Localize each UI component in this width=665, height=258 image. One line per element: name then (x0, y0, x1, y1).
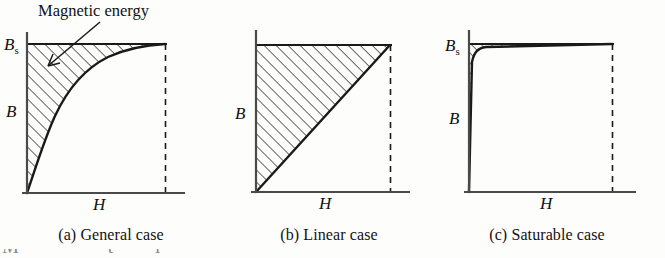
y-axis-label: B (235, 105, 245, 122)
panel-b-plot (218, 0, 440, 218)
panel-caption: (c) Saturable case (436, 226, 658, 244)
y-axis-label: B (449, 110, 459, 127)
energy-region-hatch (462, 38, 620, 200)
panel-c-plot (436, 0, 665, 218)
energy-region-hatch (20, 38, 172, 200)
magnetic-energy-annotation-label: Magnetic energy (38, 1, 149, 21)
y-axis-saturation-label: Bs (445, 37, 460, 54)
x-axis-label: H (93, 196, 105, 213)
panel-caption: (a) General case (0, 226, 222, 244)
panel-a-plot (0, 0, 222, 218)
panel-saturable-case: Bs B H (c) Saturable case (436, 0, 658, 258)
panel-general-case: Bs B H (a) General case (0, 0, 222, 258)
bh-curve (469, 44, 612, 192)
panel-linear-case: B H (b) Linear case (218, 0, 440, 258)
x-axis-label: H (319, 195, 331, 212)
x-axis-label: H (540, 195, 552, 212)
magnetization-curves-figure: Bs B H (a) General case (0, 0, 665, 258)
panel-caption: (b) Linear case (218, 226, 440, 244)
y-axis-label: B (6, 103, 16, 120)
page-text-bleed: M ti (0, 249, 665, 258)
y-axis-saturation-label: Bs (4, 36, 19, 53)
